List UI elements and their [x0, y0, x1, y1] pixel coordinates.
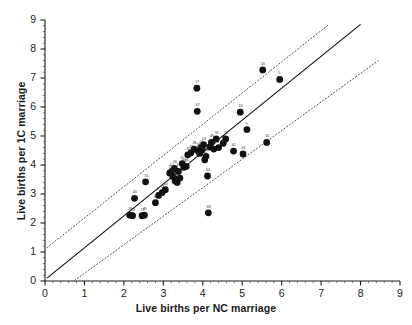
- data-point-label: 10: [261, 62, 265, 66]
- data-point-label: 19: [239, 104, 243, 108]
- x-tick-label: 7: [313, 287, 329, 299]
- data-point-label: 17: [195, 80, 199, 84]
- data-point-label: 66: [185, 158, 189, 162]
- x-tick-label: 0: [37, 287, 53, 299]
- data-point: [240, 151, 247, 158]
- data-point-label: 59: [131, 208, 135, 212]
- data-point-label: 40: [133, 190, 137, 194]
- y-axis-title: Live births per 1C marriage: [15, 16, 27, 286]
- data-point: [152, 199, 159, 206]
- data-point: [204, 173, 211, 180]
- data-point: [259, 66, 266, 73]
- data-point: [142, 178, 149, 185]
- data-point-label: 68: [207, 205, 211, 209]
- data-point: [237, 109, 244, 116]
- data-point: [131, 195, 138, 202]
- x-tick-label: 4: [195, 287, 211, 299]
- data-point-label: 51: [204, 148, 208, 152]
- x-axis-title: Live births per NC marriage: [0, 302, 412, 314]
- data-point-label: 23: [222, 135, 226, 139]
- data-point-label: 61: [232, 143, 236, 147]
- data-point-label: 4: [208, 139, 210, 143]
- x-tick-label: 2: [116, 287, 132, 299]
- data-point: [129, 212, 136, 219]
- data-point-label: 64: [206, 168, 210, 172]
- data-point-label: 5: [278, 71, 280, 75]
- data-point: [244, 126, 251, 133]
- data-point-label: 37: [189, 145, 193, 149]
- data-point-label: 8: [157, 187, 159, 191]
- data-points: [126, 66, 283, 219]
- x-tick-label: 3: [155, 287, 171, 299]
- data-point-label: 3: [217, 140, 219, 144]
- data-point: [230, 148, 237, 155]
- data-point: [193, 85, 200, 92]
- data-point-label: 55: [212, 141, 216, 145]
- data-point: [205, 209, 212, 216]
- data-point-label: 20: [164, 182, 168, 186]
- x-tick-label: 8: [353, 287, 369, 299]
- data-point-label: 9: [245, 122, 247, 126]
- x-tick-label: 1: [76, 287, 92, 299]
- plot-canvas: [0, 0, 412, 325]
- x-tick-label: 5: [234, 287, 250, 299]
- data-point: [141, 212, 148, 219]
- data-point-label: 74: [144, 174, 148, 178]
- data-point: [194, 108, 201, 115]
- axes: [41, 20, 401, 286]
- data-point-label: 2: [200, 142, 202, 146]
- data-point-label: 16: [224, 131, 228, 135]
- scatter-chart: 01234567890123456789 2659407245744781320…: [0, 0, 412, 325]
- data-point-label: 45: [143, 207, 147, 211]
- data-point-label: 29: [203, 152, 207, 156]
- data-point-label: 31: [215, 131, 219, 135]
- data-point-label: 34: [242, 146, 246, 150]
- data-point-label: 53: [202, 137, 206, 141]
- data-point-label: 69: [177, 163, 181, 167]
- data-point-label: 60: [176, 174, 180, 178]
- data-point: [183, 163, 190, 170]
- data-point-label: 30: [178, 170, 182, 174]
- confidence-bands: [47, 24, 378, 280]
- data-point: [263, 139, 270, 146]
- data-point-label: 67: [196, 103, 200, 107]
- data-point-label: 35: [265, 134, 269, 138]
- data-point-label: 65: [198, 145, 202, 149]
- x-tick-label: 9: [392, 287, 408, 299]
- data-point-label: 49: [210, 134, 214, 138]
- x-tick-label: 6: [274, 287, 290, 299]
- data-point: [276, 76, 283, 83]
- data-point-label: 47: [154, 195, 158, 199]
